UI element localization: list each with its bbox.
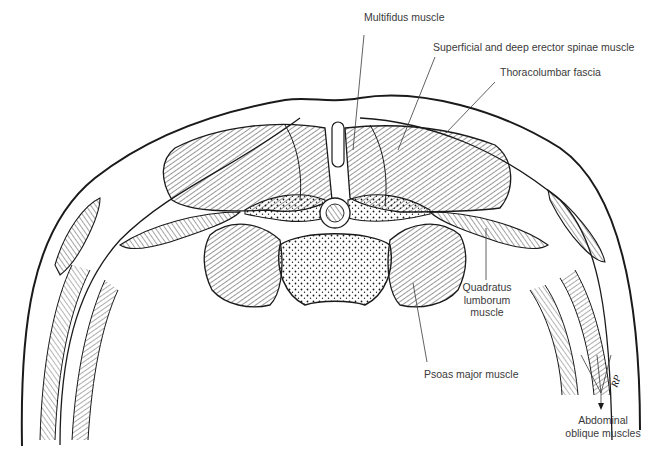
vertebral-body <box>279 234 392 305</box>
lateral-muscle-left <box>55 198 100 275</box>
arrowhead-icon <box>598 403 604 410</box>
label-quadratus-line3: muscle <box>458 306 516 319</box>
label-quadratus-line1: Quadratus <box>458 281 516 294</box>
label-abdominal-oblique: Abdominal oblique muscles <box>558 414 648 439</box>
lateral-muscle-right <box>548 190 605 262</box>
psoas-right <box>388 224 466 307</box>
label-quadratus-line2: lumborum <box>458 294 516 307</box>
label-thoracolumbar-fascia: Thoracolumbar fascia <box>500 66 601 79</box>
spinous-process <box>332 122 344 167</box>
label-oblique-line2: oblique muscles <box>558 427 648 440</box>
psoas-left <box>204 224 282 307</box>
label-multifidus: Multifidus muscle <box>364 11 445 24</box>
anatomy-diagram: RP Multifidus muscle Superficial and dee… <box>0 0 658 450</box>
label-erector-spinae: Superficial and deep erector spinae musc… <box>433 41 634 54</box>
label-quadratus-lumborum: Quadratus lumborum muscle <box>458 281 516 319</box>
leader-thoracolumbar-fascia <box>446 82 495 133</box>
label-psoas-major: Psoas major muscle <box>424 368 519 381</box>
label-oblique-line1: Abdominal <box>558 414 648 427</box>
